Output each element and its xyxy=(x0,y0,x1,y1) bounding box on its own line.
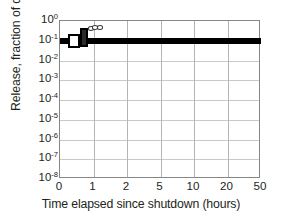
circle-marker xyxy=(97,25,103,30)
gridline-vertical xyxy=(194,21,195,177)
x-axis-tick-labels: 0125102050 xyxy=(0,180,282,198)
gridline-horizontal xyxy=(60,159,259,160)
gridline-horizontal xyxy=(60,61,259,62)
step-marker-high xyxy=(80,28,88,47)
gridline-horizontal xyxy=(60,140,259,141)
release-band xyxy=(60,38,261,43)
gridline-vertical xyxy=(127,21,128,177)
gridline-vertical xyxy=(94,21,95,177)
y-tick-label: 10-6 xyxy=(39,133,58,144)
x-tick-label: 50 xyxy=(254,180,267,192)
gridline-vertical xyxy=(161,21,162,177)
step-marker-low xyxy=(68,34,80,48)
y-tick-label: 10-2 xyxy=(39,54,58,65)
y-tick-label: 10-1 xyxy=(39,34,58,45)
gridline-horizontal xyxy=(60,80,259,81)
y-tick-label: 10-5 xyxy=(39,113,58,124)
plot-area xyxy=(59,20,260,178)
gridline-horizontal xyxy=(60,100,259,101)
x-tick-label: 0 xyxy=(56,180,62,192)
y-tick-label: 10-3 xyxy=(39,74,58,85)
gridline-vertical xyxy=(228,21,229,177)
chart-figure: Release, fraction of core inventory 1001… xyxy=(0,0,282,220)
x-tick-label: 1 xyxy=(89,180,95,192)
y-tick-label: 10-4 xyxy=(39,93,58,104)
y-tick-label: 100 xyxy=(41,14,58,25)
x-tick-label: 20 xyxy=(220,180,233,192)
y-tick-label: 10-7 xyxy=(39,153,58,164)
x-tick-label: 5 xyxy=(156,180,162,192)
x-tick-label: 10 xyxy=(187,180,200,192)
x-axis-title: Time elapsed since shutdown (hours) xyxy=(0,197,282,211)
y-axis-title: Release, fraction of core inventory xyxy=(9,0,23,111)
gridline-horizontal xyxy=(60,120,259,121)
x-tick-label: 2 xyxy=(123,180,129,192)
